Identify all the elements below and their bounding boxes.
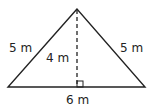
height-label: 4 m xyxy=(46,52,69,64)
triangle-diagram: 5 m 5 m 4 m 6 m xyxy=(0,0,153,111)
right-side-label: 5 m xyxy=(120,42,143,54)
base-label: 6 m xyxy=(66,94,89,106)
left-side-label: 5 m xyxy=(9,42,32,54)
right-angle-marker xyxy=(77,81,83,87)
